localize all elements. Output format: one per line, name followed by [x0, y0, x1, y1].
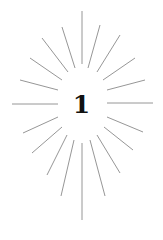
ray-line	[97, 135, 120, 173]
ray-line	[103, 58, 135, 80]
ray-line	[90, 140, 105, 196]
ray-line	[20, 80, 58, 90]
ray-line	[42, 38, 68, 72]
ray-line	[32, 127, 62, 153]
ray-line	[62, 27, 75, 68]
ray-line	[107, 80, 145, 90]
numeral-label: 1	[0, 90, 163, 120]
ray-line	[30, 58, 62, 80]
ray-line	[61, 140, 74, 196]
ray-line	[47, 135, 67, 175]
ray-line	[104, 127, 133, 150]
ray-line	[88, 25, 100, 68]
ray-line	[97, 35, 120, 72]
